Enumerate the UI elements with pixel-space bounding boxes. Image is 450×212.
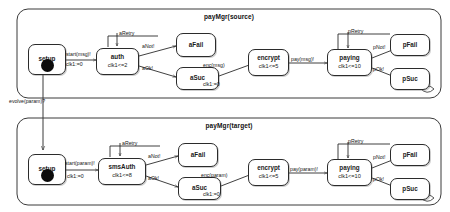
edge-label-pRetry-source: pRetry	[348, 29, 363, 34]
edge-label-pNot-source: pNot!	[373, 45, 385, 50]
state-label: encrypt	[257, 165, 280, 171]
state-encrypt-target[interactable]: encrypt clk1<=5	[248, 159, 289, 186]
edge-label-enc-action-target: clk1:=0	[203, 192, 220, 197]
state-encrypt-source[interactable]: encrypt clk1<=5	[248, 49, 289, 76]
state-pSuc-source[interactable]: pSuc	[390, 68, 430, 90]
region-title-target: payMgr(target)	[17, 122, 441, 129]
state-label: paying	[339, 165, 359, 171]
edge-label-aRetry-source: aRetry	[119, 31, 134, 36]
state-label: pFail	[403, 152, 418, 158]
state-aFail-target[interactable]: aFail	[178, 143, 218, 167]
state-invariant: clk1<=2	[108, 63, 128, 69]
state-label: auth	[111, 54, 124, 60]
state-label: pSuc	[402, 186, 417, 192]
edge-label-pRetry-target: pRetry	[348, 139, 363, 144]
edge-label-pNot-target: pNot!	[373, 155, 385, 160]
state-aFail-source[interactable]: aFail	[176, 33, 216, 57]
state-smsAuth[interactable]: smsAuth clk1<=8	[98, 158, 146, 185]
state-label: paying	[339, 55, 359, 61]
state-invariant: clk1<=5	[259, 64, 279, 70]
edge-label-pay-target: pay(param)!	[290, 167, 318, 172]
initial-state-marker	[41, 59, 54, 72]
edge-label-aNot-source: aNot!	[142, 44, 154, 49]
initial-state-marker	[41, 169, 54, 182]
state-setup-target[interactable]: setup	[28, 154, 66, 185]
state-label: pFail	[403, 42, 418, 48]
evolve-label: evolve(param)?	[9, 99, 45, 104]
edge-label-aNot-target: aNot!	[148, 154, 160, 159]
state-pFail-target[interactable]: pFail	[390, 144, 430, 166]
state-pFail-source[interactable]: pFail	[390, 34, 430, 56]
edge-label-start-target: start(param)!	[65, 161, 95, 166]
state-setup-source[interactable]: setup	[28, 44, 66, 75]
edge-label-aRetry-target: aRetry	[122, 141, 137, 146]
state-paying-target[interactable]: paying clk1<=10	[327, 159, 372, 186]
state-label: aFail	[189, 42, 203, 48]
edge-label-pOk-source: pOk!	[373, 67, 384, 72]
state-label: pSuc	[402, 76, 417, 82]
diagram-canvas: payMgr(source) payMgr(target) evolve(par…	[0, 0, 450, 212]
state-paying-source[interactable]: paying clk1<=10	[327, 49, 372, 76]
edge-label-enc-target: enc(param)	[201, 173, 228, 178]
state-label: smsAuth	[109, 164, 136, 170]
state-invariant: clk1<=10	[338, 174, 361, 180]
state-invariant: clk1<=8	[112, 173, 132, 179]
state-invariant: clk1<=5	[259, 174, 279, 180]
state-invariant: clk1<=10	[338, 64, 361, 70]
edge-label-start-source: start(msg)!	[66, 52, 91, 57]
state-pSuc-target[interactable]: pSuc	[390, 178, 430, 200]
edge-label-pay-source: pay(msg)!	[291, 57, 314, 62]
state-auth[interactable]: auth clk1<=2	[96, 48, 139, 75]
edge-label-start-action-source: clk1:=0	[66, 62, 83, 67]
state-label: aFail	[191, 152, 205, 158]
edge-label-aOk-source: aOk!	[142, 66, 153, 71]
edge-label-start-action-target: clk1:=0	[67, 174, 84, 179]
edge-label-enc-action-source: clk1:=0	[203, 82, 220, 87]
edge-label-enc-source: enc(msg)	[203, 63, 225, 68]
state-label: encrypt	[257, 55, 280, 61]
edge-label-pOk-target: pOk!	[373, 177, 384, 182]
edge-label-aOk-target: aOk!	[148, 176, 159, 181]
region-title-source: payMgr(source)	[17, 13, 441, 20]
